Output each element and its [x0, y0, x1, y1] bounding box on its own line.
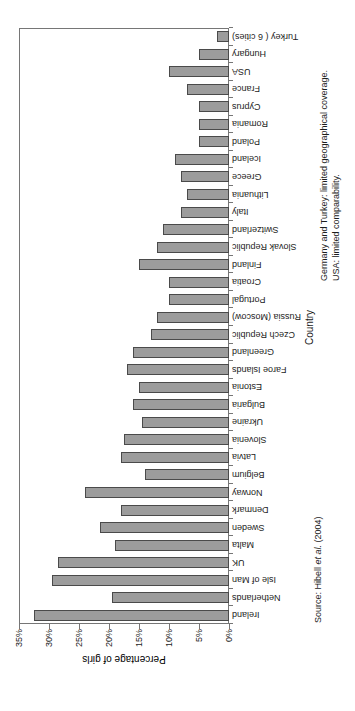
x-axis-title: Country: [304, 310, 315, 345]
source-note-prefix: Source: Hibell: [313, 564, 323, 623]
y-axis-title: Percentage of girls: [19, 654, 229, 665]
source-note-etal: et al.: [313, 545, 323, 565]
ytick-labels-layer: 0%5%10%15%20%25%30%35%: [0, 0, 355, 711]
coverage-note-line1: Germany and Turkey: limited geographical…: [319, 70, 329, 281]
page: IrelandNetherlandsIsle of ManUKMaltaSwed…: [0, 0, 355, 711]
coverage-note-line2: USA: limited comparability.: [331, 174, 341, 281]
chart-canvas: IrelandNetherlandsIsle of ManUKMaltaSwed…: [0, 0, 355, 711]
source-note-suffix: (2004): [313, 516, 323, 545]
source-note: Source: Hibell et al. (2004): [313, 516, 323, 623]
